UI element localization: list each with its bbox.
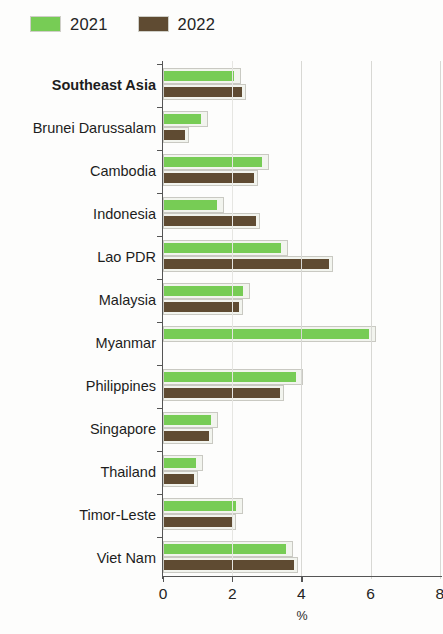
bar-2022 <box>163 127 189 143</box>
x-axis-tick-label: 0 <box>159 585 168 603</box>
legend-entry: 2021 <box>30 15 108 34</box>
bar-2021 <box>163 455 203 471</box>
chart-row: Indonesia <box>0 192 443 235</box>
x-axis-tick-label: 8 <box>435 585 443 603</box>
bar-chart: 20212022 Southeast AsiaBrunei Darussalam… <box>0 0 443 634</box>
chart-row: Thailand <box>0 450 443 493</box>
bar-2022 <box>163 428 213 444</box>
bar-fill <box>164 501 236 511</box>
chart-row: Southeast Asia <box>0 63 443 106</box>
x-axis-tick <box>232 576 233 582</box>
bar-fill <box>164 200 217 210</box>
chart-row: Cambodia <box>0 149 443 192</box>
category-tick <box>157 193 162 194</box>
bar-fill <box>164 329 369 339</box>
x-axis-tick-label: 6 <box>366 585 375 603</box>
bar-2021 <box>163 326 376 342</box>
gridline <box>232 61 233 579</box>
category-label: Timor-Leste <box>79 507 156 523</box>
gridline <box>301 61 302 579</box>
x-axis-tick <box>163 576 164 582</box>
bar-2021 <box>163 68 241 84</box>
category-label: Indonesia <box>93 206 156 222</box>
category-tick <box>157 322 162 323</box>
bar-2021 <box>163 498 243 514</box>
bar-fill <box>164 87 242 97</box>
x-axis-tick <box>301 576 302 582</box>
legend-label: 2022 <box>178 15 216 34</box>
category-tick <box>157 150 162 151</box>
chart-row: Lao PDR <box>0 235 443 278</box>
bar-fill <box>164 302 239 312</box>
bar-2021 <box>163 283 250 299</box>
bar-2022 <box>163 557 298 573</box>
chart-row: Malaysia <box>0 278 443 321</box>
category-label: Thailand <box>100 464 156 480</box>
bar-fill <box>164 259 329 269</box>
category-tick <box>157 365 162 366</box>
bar-2022 <box>163 84 246 100</box>
plot-area: Southeast AsiaBrunei DarussalamCambodiaI… <box>0 58 443 580</box>
gridline <box>371 61 372 579</box>
bar-2021 <box>163 412 218 428</box>
bar-fill <box>164 415 211 425</box>
category-tick <box>157 494 162 495</box>
category-tick <box>157 64 162 65</box>
category-tick <box>157 107 162 108</box>
bar-fill <box>164 71 234 81</box>
bar-fill <box>164 517 232 527</box>
bar-fill <box>164 286 243 296</box>
bar-2022 <box>163 299 243 315</box>
chart-row: Brunei Darussalam <box>0 106 443 149</box>
bar-fill <box>164 243 281 253</box>
bar-fill <box>164 560 294 570</box>
category-tick <box>157 279 162 280</box>
category-label: Malaysia <box>99 292 156 308</box>
bar-2022 <box>163 385 284 401</box>
legend-swatch-icon <box>30 16 61 32</box>
bar-2022 <box>163 471 198 487</box>
chart-row: Myanmar <box>0 321 443 364</box>
bar-fill <box>164 372 296 382</box>
bar-2022 <box>163 256 333 272</box>
category-tick <box>157 537 162 538</box>
category-label: Myanmar <box>96 335 156 351</box>
category-label: Philippines <box>86 378 156 394</box>
bar-2021 <box>163 111 208 127</box>
chart-row: Singapore <box>0 407 443 450</box>
bar-2021 <box>163 154 269 170</box>
chart-row: Timor-Leste <box>0 493 443 536</box>
x-axis-tick-label: 4 <box>297 585 306 603</box>
bar-2022 <box>163 213 260 229</box>
bar-fill <box>164 114 201 124</box>
bar-fill <box>164 173 254 183</box>
bar-fill <box>164 388 280 398</box>
category-label: Brunei Darussalam <box>33 120 156 136</box>
bar-fill <box>164 130 185 140</box>
bar-fill <box>164 216 256 226</box>
bar-2022 <box>163 514 236 530</box>
category-tick <box>157 451 162 452</box>
category-label: Viet Nam <box>97 550 156 566</box>
gridline <box>440 61 441 579</box>
bar-2021 <box>163 541 293 557</box>
x-axis: % 02468 <box>0 576 443 634</box>
category-label: Lao PDR <box>97 249 156 265</box>
bar-fill <box>164 544 286 554</box>
bar-2022 <box>163 170 258 186</box>
chart-row: Philippines <box>0 364 443 407</box>
category-label: Cambodia <box>90 163 156 179</box>
legend-label: 2021 <box>70 15 108 34</box>
bar-fill <box>164 157 262 167</box>
legend-swatch-icon <box>138 16 169 32</box>
x-axis-tick-label: 2 <box>228 585 237 603</box>
legend-entry: 2022 <box>138 15 216 34</box>
category-tick <box>157 236 162 237</box>
category-tick <box>157 408 162 409</box>
chart-legend: 20212022 <box>30 11 215 37</box>
category-label: Singapore <box>90 421 156 437</box>
x-axis-title: % <box>296 609 307 623</box>
category-label: Southeast Asia <box>52 77 156 93</box>
chart-row: Viet Nam <box>0 536 443 579</box>
bar-2021 <box>163 240 288 256</box>
